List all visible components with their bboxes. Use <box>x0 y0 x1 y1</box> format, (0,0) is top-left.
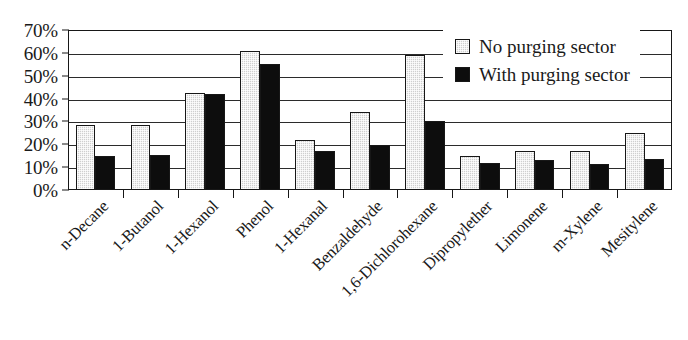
y-tick-mark <box>62 52 69 53</box>
y-tick-label: 10% <box>24 158 58 177</box>
y-tick-label: 20% <box>24 135 58 154</box>
bar-group <box>68 30 123 190</box>
legend-item-1[interactable]: With purging sector <box>455 62 630 86</box>
bar-no-purging-sector[interactable] <box>460 156 480 190</box>
y-tick-mark <box>62 121 69 122</box>
x-axis-labels: n-Decane1-Butanol1-HexanolPhenol1-Hexana… <box>0 190 688 340</box>
bar-with-purging-sector[interactable] <box>370 145 390 190</box>
bar-with-purging-sector[interactable] <box>425 121 445 190</box>
x-axis-category-label: Phenol <box>233 198 276 241</box>
bar-group <box>178 30 233 190</box>
y-tick-mark <box>62 167 69 168</box>
y-tick-label: 40% <box>24 89 58 108</box>
legend-item-0[interactable]: No purging sector <box>455 34 630 58</box>
y-axis: 0%10%20%30%40%50%60%70% <box>0 30 64 190</box>
bar-no-purging-sector[interactable] <box>405 55 425 190</box>
bar-no-purging-sector[interactable] <box>131 125 151 190</box>
bar-with-purging-sector[interactable] <box>480 163 500 190</box>
y-tick-label: 60% <box>24 43 58 62</box>
bar-group <box>288 30 343 190</box>
y-tick-label: 70% <box>24 21 58 40</box>
bar-with-purging-sector[interactable] <box>150 155 170 190</box>
bar-with-purging-sector[interactable] <box>590 164 610 190</box>
y-tick-mark <box>62 144 69 145</box>
bar-no-purging-sector[interactable] <box>515 151 535 190</box>
bar-with-purging-sector[interactable] <box>260 64 280 190</box>
bar-no-purging-sector[interactable] <box>350 112 370 190</box>
bar-no-purging-sector[interactable] <box>625 133 645 190</box>
x-axis-category-label: n-Decane <box>56 198 111 253</box>
y-tick-label: 30% <box>24 112 58 131</box>
bar-no-purging-sector[interactable] <box>295 140 315 190</box>
bar-with-purging-sector[interactable] <box>315 151 335 190</box>
bar-with-purging-sector[interactable] <box>205 94 225 190</box>
x-axis-category-label: Mesitylene <box>599 198 661 260</box>
bar-no-purging-sector[interactable] <box>185 93 205 190</box>
bar-with-purging-sector[interactable] <box>95 156 115 190</box>
x-axis-category-label: 1-Hexanol <box>162 198 222 258</box>
bar-no-purging-sector[interactable] <box>570 151 590 190</box>
y-tick-mark <box>62 190 69 191</box>
bar-no-purging-sector[interactable] <box>240 51 260 190</box>
dark-square-icon <box>455 67 470 82</box>
legend-item-label: No purging sector <box>479 37 616 56</box>
x-axis-category-label: Limonene <box>493 198 551 256</box>
light-square-icon <box>455 39 470 54</box>
y-tick-mark <box>62 75 69 76</box>
bar-group <box>123 30 178 190</box>
bar-with-purging-sector[interactable] <box>535 160 555 190</box>
bar-group <box>233 30 288 190</box>
bar-with-purging-sector[interactable] <box>645 159 665 190</box>
bar-no-purging-sector[interactable] <box>76 125 96 190</box>
y-tick-mark <box>62 30 69 31</box>
bar-chart: 0%10%20%30%40%50%60%70% n-Decane1-Butano… <box>0 0 688 340</box>
y-tick-label: 50% <box>24 66 58 85</box>
y-tick-mark <box>62 98 69 99</box>
legend-item-label: With purging sector <box>479 65 630 84</box>
bar-group <box>343 30 398 190</box>
chart-legend: No purging sector With purging sector <box>443 28 640 93</box>
x-axis-category-label: 1-Butanol <box>109 198 166 255</box>
